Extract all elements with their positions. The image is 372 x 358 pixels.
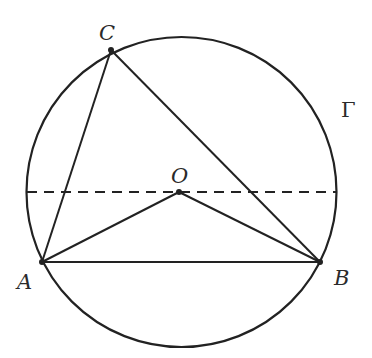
segment-oa	[42, 192, 179, 262]
geometry-diagram: C O Γ A B	[0, 0, 372, 358]
label-gamma: Γ	[341, 98, 356, 122]
point-b	[317, 259, 323, 265]
label-a: A	[15, 270, 32, 294]
label-c: C	[99, 21, 115, 45]
segment-ca	[42, 50, 111, 262]
point-o	[176, 189, 182, 195]
point-a	[39, 259, 45, 265]
segment-ob	[179, 192, 320, 262]
segment-bc	[111, 50, 320, 262]
label-b: B	[333, 266, 349, 290]
label-o: O	[171, 164, 188, 188]
point-c	[108, 47, 114, 53]
